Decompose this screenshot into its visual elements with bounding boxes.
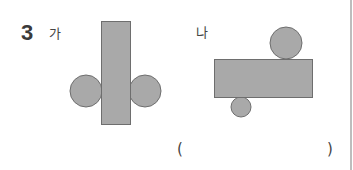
figure-a-right-circle <box>129 75 161 107</box>
answer-close-paren: ) <box>327 140 333 158</box>
figure-a-rectangle <box>102 22 131 125</box>
figure-b <box>215 27 313 117</box>
right-divider <box>350 0 352 170</box>
figure-a-left-circle <box>70 75 102 107</box>
figure-b-top-circle <box>270 27 302 59</box>
answer-open-paren: ( <box>177 140 183 158</box>
figure-b-rectangle <box>215 60 313 98</box>
figure-a <box>70 22 161 125</box>
figure-b-bottom-circle <box>231 97 251 117</box>
